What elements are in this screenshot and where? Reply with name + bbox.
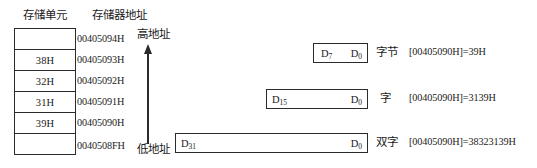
memory-cell-table: 38H 32H 31H 39H bbox=[14, 28, 76, 155]
double-word-msb-bit-label: D31 bbox=[181, 138, 196, 149]
word-value-annotation: [00405090H]=3139H bbox=[409, 92, 496, 104]
byte-msb-bit-label: D7 bbox=[321, 48, 332, 59]
double-word-lsb-bit-label: D0 bbox=[351, 138, 362, 149]
byte-unit-label: 字节 bbox=[376, 46, 398, 59]
memory-cell-value: 31H bbox=[36, 97, 54, 108]
high-address-label: 高地址 bbox=[137, 28, 170, 41]
memory-cell-value: 32H bbox=[36, 76, 54, 87]
byte-value-annotation: [00405090H]=39H bbox=[409, 46, 486, 58]
table-row: 39H bbox=[15, 113, 75, 134]
word-width-box: D15 D0 bbox=[266, 89, 368, 109]
column-header-memory-cell: 存储单元 bbox=[14, 8, 76, 22]
memory-layout-diagram: 存储单元 存储器地址 38H 32H 31H 39H 00405094H 004… bbox=[0, 0, 537, 168]
address-direction-arrow-shaft bbox=[147, 52, 149, 144]
byte-lsb-bit-label: D0 bbox=[351, 48, 362, 59]
memory-cell-value: 38H bbox=[36, 55, 54, 66]
double-word-unit-label: 双字 bbox=[376, 136, 398, 149]
byte-width-box: D7 D0 bbox=[313, 43, 368, 63]
double-word-width-box: D31 D0 bbox=[175, 133, 368, 153]
low-address-label: 低地址 bbox=[137, 143, 170, 156]
memory-cell-value: 39H bbox=[36, 118, 54, 129]
table-row: 32H bbox=[15, 71, 75, 92]
column-header-memory-address: 存储器地址 bbox=[80, 8, 158, 22]
table-row: 31H bbox=[15, 92, 75, 113]
word-msb-bit-label: D15 bbox=[272, 94, 287, 105]
table-row bbox=[15, 29, 75, 50]
double-word-value-annotation: [00405090H]=38323139H bbox=[409, 136, 516, 148]
table-row bbox=[15, 134, 75, 156]
table-row: 38H bbox=[15, 50, 75, 71]
word-unit-label: 字 bbox=[380, 92, 391, 105]
word-lsb-bit-label: D0 bbox=[351, 94, 362, 105]
